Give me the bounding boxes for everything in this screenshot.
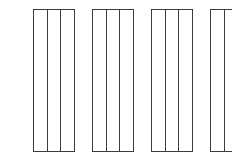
panel-4[interactable] bbox=[211, 10, 233, 152]
panel-3[interactable] bbox=[152, 10, 193, 152]
panel-2[interactable] bbox=[93, 10, 134, 152]
panel-1[interactable] bbox=[34, 10, 75, 152]
panel-2-outline bbox=[93, 10, 134, 152]
diagram-canvas bbox=[0, 0, 232, 166]
panel-4-outline bbox=[211, 10, 233, 152]
panel-1-outline bbox=[34, 10, 75, 152]
panels-group bbox=[34, 10, 233, 152]
panel-3-outline bbox=[152, 10, 193, 152]
panel-diagram bbox=[0, 0, 232, 166]
